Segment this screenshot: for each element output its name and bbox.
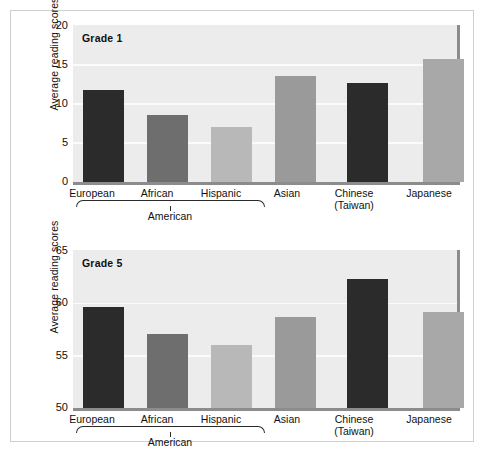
x-label-grade-5-african: African bbox=[122, 413, 192, 425]
x-label-grade-5-hispanic: Hispanic bbox=[185, 413, 257, 425]
gridline-grade-1-5 bbox=[73, 142, 457, 144]
bar-grade-5-chinese bbox=[347, 279, 388, 408]
y-tick-grade-5-60: 60 bbox=[42, 297, 68, 308]
bar-grade-1-chinese bbox=[347, 83, 388, 182]
bar-grade-1-japanese bbox=[423, 59, 464, 182]
y-axis-label-grade-5: Average reading scores bbox=[48, 197, 60, 357]
x-label-grade-5-chinese-line2: (Taiwan) bbox=[312, 425, 396, 437]
y-tick-grade-1-15: 15 bbox=[42, 59, 68, 70]
gridline-grade-5-60 bbox=[73, 303, 457, 305]
y-tick-grade-5-55: 55 bbox=[42, 350, 68, 361]
bar-grade-1-asian bbox=[275, 76, 316, 182]
gridline-grade-1-10 bbox=[73, 103, 457, 105]
bar-grade-5-african bbox=[147, 334, 188, 408]
x-label-grade-5-japanese: Japanese bbox=[390, 413, 468, 425]
panel-title-grade-5: Grade 5 bbox=[82, 257, 123, 269]
x-label-grade-5-chinese-line1: Chinese bbox=[335, 413, 374, 425]
gridline-grade-1-15 bbox=[73, 64, 457, 66]
bar-grade-1-african bbox=[147, 115, 188, 182]
x-label-grade-1-european: European bbox=[56, 187, 128, 199]
y-tick-grade-5-65: 65 bbox=[42, 245, 68, 256]
plot-area-grade-5: Grade 5 bbox=[73, 250, 460, 411]
x-label-grade-1-chinese-line1: Chinese bbox=[335, 187, 374, 199]
y-tick-grade-1-20: 20 bbox=[42, 20, 68, 31]
figure-root: Average reading scores 20 15 10 5 0 Grad… bbox=[0, 0, 485, 453]
y-tick-grade-1-0: 0 bbox=[42, 176, 68, 187]
x-label-grade-1-chinese-line2: (Taiwan) bbox=[312, 199, 396, 211]
gridline-grade-5-55 bbox=[73, 355, 457, 357]
x-label-grade-5-chinese: Chinese (Taiwan) bbox=[312, 413, 396, 437]
y-tick-grade-1-5: 5 bbox=[42, 137, 68, 148]
plot-area-grade-1: Grade 1 bbox=[73, 25, 460, 185]
x-label-grade-1-japanese: Japanese bbox=[390, 187, 468, 199]
x-label-grade-1-hispanic: Hispanic bbox=[185, 187, 257, 199]
bar-grade-5-hispanic bbox=[211, 345, 252, 408]
bar-grade-5-japanese bbox=[423, 312, 464, 408]
x-label-grade-5-european: European bbox=[56, 413, 128, 425]
x-label-grade-1-african: African bbox=[122, 187, 192, 199]
y-tick-grade-1-10: 10 bbox=[42, 98, 68, 109]
bar-grade-1-hispanic bbox=[211, 127, 252, 182]
chart-panel-grade-1: Average reading scores 20 15 10 5 0 Grad… bbox=[0, 0, 485, 228]
panel-title-grade-1: Grade 1 bbox=[82, 32, 123, 44]
y-tick-grade-5-50: 50 bbox=[42, 402, 68, 413]
group-bracket-label-grade-1: American bbox=[130, 210, 210, 222]
bar-grade-1-european bbox=[83, 90, 124, 182]
bar-grade-5-asian bbox=[275, 317, 316, 408]
x-label-grade-1-chinese: Chinese (Taiwan) bbox=[312, 187, 396, 211]
group-bracket-label-grade-5: American bbox=[130, 436, 210, 448]
bar-grade-5-european bbox=[83, 307, 124, 408]
chart-panel-grade-5: Average reading scores 65 60 55 50 Grade… bbox=[0, 223, 485, 453]
